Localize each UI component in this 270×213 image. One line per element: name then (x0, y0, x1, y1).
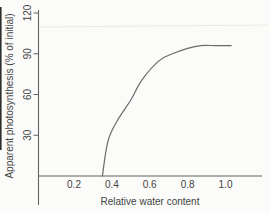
scan-page-edge-artifact (0, 7, 2, 150)
scan-line-artifact (40, 25, 268, 27)
photosynthesis-curve (102, 45, 231, 176)
x-tick-label: 1.0 (219, 179, 233, 190)
x-axis-title: Relative water content (101, 196, 200, 207)
y-tick-label: 120 (22, 4, 33, 21)
x-tick-label: 0.4 (105, 179, 119, 190)
x-tick-label: 0.2 (67, 179, 81, 190)
chart-canvas: 120906030 0.20.40.60.81.0 Apparent photo… (0, 0, 270, 213)
y-tick-label: 60 (22, 89, 33, 101)
x-tick-label: 0.6 (143, 179, 157, 190)
photosynthesis-water-figure: 120906030 0.20.40.60.81.0 Apparent photo… (0, 0, 270, 213)
y-tick-label: 30 (22, 129, 33, 141)
y-axis-title: Apparent photosynthesis (% of initial) (4, 13, 15, 178)
y-axis-ticks: 120906030 (22, 4, 39, 141)
y-tick-label: 90 (22, 48, 33, 60)
x-tick-label: 0.8 (181, 179, 195, 190)
x-axis-tick-labels: 0.20.40.60.81.0 (67, 179, 233, 190)
